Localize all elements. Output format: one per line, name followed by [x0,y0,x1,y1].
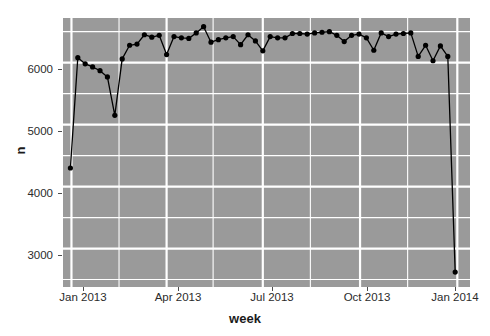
data-point [305,32,310,37]
data-point [127,43,132,48]
data-point [208,40,213,45]
data-point [260,48,265,53]
data-point [371,48,376,53]
data-point [245,32,250,37]
data-point [327,29,332,34]
x-tick-label-apr-2013: Apr 2013 [133,291,223,303]
data-point [356,32,361,37]
data-point [453,270,458,275]
data-point [238,42,243,47]
data-point [282,35,287,40]
data-point [401,31,406,36]
data-point [438,43,443,48]
x-tick-mark-jul-2013 [272,287,273,291]
data-point [430,58,435,63]
y-axis-title: n [13,121,28,181]
x-tick-label-jan-2013: Jan 2013 [38,291,128,303]
y-tick-mark-6000 [58,69,62,70]
data-point [134,41,139,46]
data-point [216,37,221,42]
data-point [171,34,176,39]
x-tick-mark-jan-2013 [83,287,84,291]
chart-container: 6000 5000 4000 3000 Jan 2013 Apr 2013 Ju… [0,0,490,336]
y-tick-label-3000: 3000 [9,249,53,261]
data-point [312,30,317,35]
data-point [253,38,258,43]
data-point [393,32,398,37]
data-point [268,34,273,39]
data-point [164,52,169,57]
y-tick-mark-3000 [58,255,62,256]
data-point [386,34,391,39]
data-point [179,35,184,40]
data-point [231,34,236,39]
data-point [423,43,428,48]
data-point [83,61,88,66]
data-point [105,74,110,79]
data-point [290,31,295,36]
plot-panel [63,18,470,287]
data-point [149,35,154,40]
y-tick-label-6000: 6000 [9,63,53,75]
data-point [112,113,117,118]
data-point [97,68,102,73]
data-point [342,39,347,44]
y-tick-label-4000: 4000 [9,187,53,199]
y-tick-mark-5000 [58,131,62,132]
data-point [445,54,450,59]
data-point [68,165,73,170]
data-point [186,36,191,41]
x-axis-title: week [0,311,490,326]
data-point [157,33,162,38]
data-point [408,30,413,35]
data-point [194,30,199,35]
data-point [297,31,302,36]
data-point [416,54,421,59]
data-point [201,24,206,29]
data-point [275,35,280,40]
data-point [120,56,125,61]
y-tick-mark-4000 [58,193,62,194]
data-point [364,35,369,40]
x-tick-label-jul-2013: Jul 2013 [227,291,317,303]
data-point [75,55,80,60]
data-point [319,30,324,35]
x-tick-mark-apr-2013 [178,287,179,291]
data-point [349,33,354,38]
data-point [90,64,95,69]
data-point [334,33,339,38]
x-tick-mark-jan-2014 [455,287,456,291]
x-tick-label-jan-2014: Jan 2014 [410,291,490,303]
line-chart-svg [63,18,470,287]
x-tick-label-oct-2013: Oct 2013 [322,291,412,303]
data-point [142,32,147,37]
data-point [379,30,384,35]
x-tick-mark-oct-2013 [367,287,368,291]
data-point [223,35,228,40]
